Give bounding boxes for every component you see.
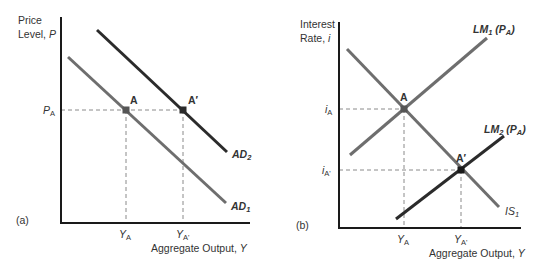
ya-tick-label-b: YA [397,233,409,247]
ya-tick-label: YA [119,228,131,242]
panel-b-guides [339,109,461,228]
point-ap-label-b: A′ [456,152,467,164]
panel-a-tag: (a) [16,214,29,226]
ia-tick-label: iA [325,103,332,117]
point-a-marker [123,107,130,114]
panel-a-axes [61,17,250,223]
point-a-label: A [130,94,138,106]
ad1-label: AD1 [230,200,250,214]
y-axis-label-line2: Level, P [18,28,56,40]
y-axis-label-line1-b: Interest [300,18,335,30]
point-ap-marker-b [458,167,465,174]
point-ap-label: A′ [188,94,199,106]
yap-tick-label-b: YA' [454,233,468,247]
iap-tick-label: iA' [322,164,331,178]
point-ap-marker [180,107,187,114]
lm2-curve [396,136,504,219]
point-a-label-b: A [400,91,408,103]
is1-label: IS1 [505,205,519,219]
pa-tick-label: PA [43,104,55,118]
lm1-label: LM1 (PA) [473,23,515,37]
yap-tick-label: YA' [176,228,190,242]
y-axis-label-line1: Price [18,14,42,26]
x-axis-label-b: Aggregate Output, Y [429,247,526,259]
panel-b-tag: (b) [296,219,309,231]
y-axis-label-line2-b: Rate, i [300,32,331,44]
lm1-curve [350,38,487,155]
ad2-label: AD2 [231,148,252,162]
figure: Price Level, P PA A A′ AD2 AD1 (a) YA YA… [0,0,545,265]
panel-a: Price Level, P PA A A′ AD2 AD1 (a) YA YA… [16,14,252,254]
is1-curve [347,49,499,207]
ad2-curve [97,30,227,152]
lm2-label: LM2 (PA) [484,123,526,137]
point-a-marker-b [401,106,408,113]
x-axis-label: Aggregate Output, Y [151,242,248,254]
panel-b: Interest Rate, i iA iA' A A′ LM1 (PA) LM… [296,18,526,259]
panel-a-guides [61,110,183,223]
